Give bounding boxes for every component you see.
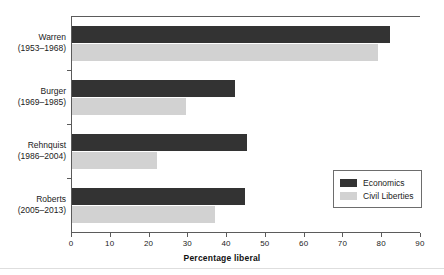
x-axis-line (71, 232, 420, 233)
plot-top-rule (71, 16, 420, 17)
category-label-warren: Warren(1953–1968) (0, 32, 66, 54)
x-tick-80 (381, 233, 382, 237)
x-tick-20 (149, 233, 150, 237)
bar-roberts-economics (72, 188, 245, 205)
legend-swatch-civil-liberties (340, 192, 357, 200)
legend-label-economics: Economics (363, 178, 405, 188)
category-label-roberts: Roberts(2005–2013) (0, 194, 66, 216)
legend-item-economics: Economics (340, 176, 414, 189)
chart-legend: Economics Civil Liberties (333, 170, 422, 208)
x-tick-90 (420, 233, 421, 237)
bar-warren-economics (72, 26, 390, 43)
x-tick-30 (187, 233, 188, 237)
x-axis-title: Percentage liberal (0, 253, 444, 263)
x-tick-10 (110, 233, 111, 237)
category-name: Warren (0, 32, 66, 43)
x-tick-40 (226, 233, 227, 237)
legend-swatch-economics (340, 179, 357, 187)
y-axis-separator-tick (67, 178, 71, 179)
bar-rehnquist-economics (72, 134, 247, 151)
x-tick-label-20: 20 (144, 239, 153, 248)
x-tick-label-50: 50 (260, 239, 269, 248)
x-tick-label-60: 60 (299, 239, 308, 248)
legend-item-civil-liberties: Civil Liberties (340, 189, 414, 202)
x-tick-label-90: 90 (415, 239, 424, 248)
category-years: (1953–1968) (0, 43, 66, 54)
category-years: (1969–1985) (0, 97, 66, 108)
x-tick-label-30: 30 (183, 239, 192, 248)
x-tick-0 (71, 233, 72, 237)
x-tick-60 (304, 233, 305, 237)
category-label-burger: Burger(1969–1985) (0, 86, 66, 108)
bar-burger-economics (72, 80, 235, 97)
x-tick-50 (265, 233, 266, 237)
bar-burger-civil-liberties (72, 98, 186, 115)
y-axis-separator-tick (67, 124, 71, 125)
bar-roberts-civil-liberties (72, 206, 215, 223)
category-label-rehnquist: Rehnquist(1986–2004) (0, 140, 66, 162)
legend-label-civil-liberties: Civil Liberties (363, 191, 414, 201)
category-years: (1986–2004) (0, 151, 66, 162)
bar-rehnquist-civil-liberties (72, 152, 157, 169)
category-name: Rehnquist (0, 140, 66, 151)
footer-rule (0, 268, 444, 269)
chart-figure: Warren(1953–1968)Burger(1969–1985)Rehnqu… (0, 0, 444, 275)
category-name: Roberts (0, 194, 66, 205)
x-tick-label-10: 10 (105, 239, 114, 248)
x-tick-label-80: 80 (377, 239, 386, 248)
bar-warren-civil-liberties (72, 44, 378, 61)
x-tick-label-40: 40 (221, 239, 230, 248)
x-tick-label-0: 0 (69, 239, 74, 248)
category-name: Burger (0, 86, 66, 97)
x-tick-label-70: 70 (338, 239, 347, 248)
x-tick-70 (342, 233, 343, 237)
category-years: (2005–2013) (0, 205, 66, 216)
y-axis-separator-tick (67, 70, 71, 71)
